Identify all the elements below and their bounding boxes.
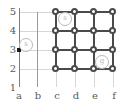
x-tick-label-a: a — [12, 91, 26, 101]
x-tick-label-d: d — [69, 91, 83, 101]
x-axis-ticks: a b c d e f — [0, 0, 119, 103]
x-tick-label-e: e — [88, 91, 102, 101]
x-tick-label-f: f — [107, 91, 119, 101]
x-tick-label-c: c — [50, 91, 64, 101]
coordinate-grid-plot: s s g 5 4 3 2 1 a b c d e f — [0, 0, 119, 103]
x-tick-label-b: b — [31, 91, 45, 101]
